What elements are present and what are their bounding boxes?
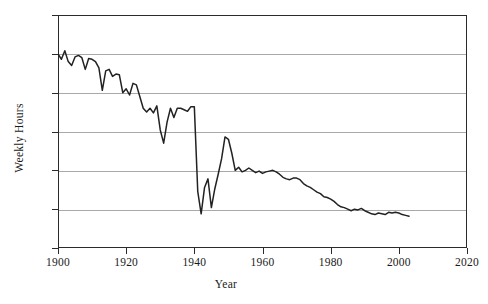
x-tick-mark-1980 [331,248,332,254]
x-axis-title-text: Year [215,278,237,290]
x-tick-label-1980: 1980 [319,256,343,268]
x-tick-mark-1900 [58,248,59,254]
x-tick-mark-1960 [263,248,264,254]
weekly-hours-line-chart: 30354045505560 1900192019401960198020002… [0,0,488,304]
x-tick-mark-1920 [126,248,127,254]
x-tick-label-2000: 2000 [387,256,411,268]
series-line-weekly-hours [58,15,467,248]
x-tick-label-2020: 2020 [455,256,479,268]
x-tick-label-1940: 1940 [182,256,206,268]
x-tick-label-1920: 1920 [114,256,138,268]
x-tick-mark-1940 [194,248,195,254]
x-tick-mark-2020 [467,248,468,254]
x-tick-mark-2000 [399,248,400,254]
y-axis-title: Weekly Hours [13,83,25,193]
x-tick-label-1960: 1960 [251,256,275,268]
x-tick-label-1900: 1900 [46,256,70,268]
x-axis-title: Year [0,278,488,290]
